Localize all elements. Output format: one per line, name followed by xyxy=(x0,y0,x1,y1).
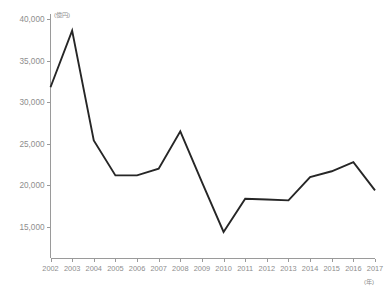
x-tick-label: 2003 xyxy=(64,264,80,273)
x-tick-label: 2012 xyxy=(259,264,275,273)
y-tick-label: 20,000 xyxy=(19,181,44,190)
y-tick-label: 35,000 xyxy=(19,57,44,66)
x-tick-label: 2008 xyxy=(172,264,188,273)
y-tick-label: 15,000 xyxy=(19,223,44,232)
y-tick-label: 25,000 xyxy=(19,140,44,149)
x-tick-label: 2002 xyxy=(42,264,58,273)
x-tick-label: 2006 xyxy=(129,264,145,273)
x-axis-unit-label: (年) xyxy=(364,278,374,286)
y-axis-ticks: 15,00020,00025,00030,00035,00040,000 xyxy=(19,15,50,232)
y-tick-label: 30,000 xyxy=(19,98,44,107)
x-tick-label: 2005 xyxy=(107,264,123,273)
y-tick-label: 40,000 xyxy=(19,15,44,24)
data-series-line xyxy=(51,31,376,232)
x-tick-label: 2017 xyxy=(367,264,383,273)
chart-canvas: 15,00020,00025,00030,00035,00040,000 200… xyxy=(0,0,384,293)
x-tick-label: 2009 xyxy=(194,264,210,273)
x-tick-label: 2010 xyxy=(215,264,231,273)
x-tick-label: 2007 xyxy=(150,264,166,273)
x-tick-label: 2013 xyxy=(280,264,296,273)
x-tick-label: 2016 xyxy=(345,264,361,273)
x-tick-label: 2014 xyxy=(302,264,318,273)
x-tick-label: 2011 xyxy=(237,264,253,273)
x-axis-ticks: 2002200320042005200620072008200920102011… xyxy=(42,259,383,274)
y-axis-unit-label: (億円) xyxy=(54,11,70,19)
x-tick-label: 2015 xyxy=(324,264,340,273)
x-tick-label: 2004 xyxy=(86,264,102,273)
line-chart-figure: 15,00020,00025,00030,00035,00040,000 200… xyxy=(0,0,384,293)
